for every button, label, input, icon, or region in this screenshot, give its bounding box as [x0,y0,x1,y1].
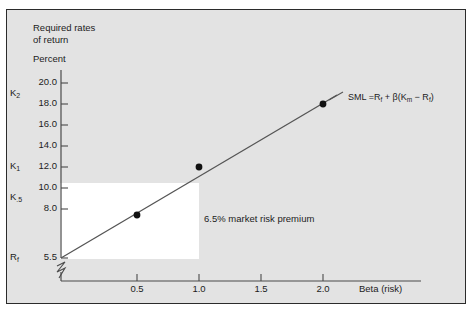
sml-line [61,95,337,258]
sml-equation-mid: + β(K [382,92,406,102]
sml-equation-label: SML =Rf + β(Km − Rf) [348,92,434,102]
x-tick-label-1-0: 1.0 [175,284,223,295]
x-tick-label-1-5: 1.5 [237,284,285,295]
sml-equation-close: ) [431,92,434,102]
y-value-label-rf-sub: f [17,256,19,263]
y-tick-label-18: 18.0 [13,98,57,109]
figure-root: Required rates of return Percent 20.0 18… [0,0,475,319]
data-point-beta-2-0 [320,101,327,108]
y-value-label-rf: Rf [10,252,19,263]
y-value-label-k2-sub: 2 [16,92,20,99]
sml-equation-lead: SML =R [348,92,380,102]
y-value-label-rf-base: R [10,251,17,262]
y-value-label-k2: K2 [10,88,20,99]
chart-panel: Required rates of return Percent 20.0 18… [6,9,466,304]
plot-area: Required rates of return Percent 20.0 18… [7,10,467,305]
market-risk-premium-label: 6.5% market risk premium [204,214,314,225]
data-point-beta-0-5 [134,212,141,219]
x-tick-label-0-5: 0.5 [113,284,161,295]
y-axis-title-line1: Required rates [33,23,95,34]
y-tick-label-8: 8.0 [13,203,57,214]
x-tick-marks [137,274,323,281]
sml-equation-leader [329,92,343,100]
data-point-beta-1-0 [196,164,203,171]
y-axis-unit-label: Percent [33,54,66,65]
sml-equation-tail: − R [412,92,429,102]
x-axis-title: Beta (risk) [359,284,402,295]
y-value-label-k1: K1 [10,161,20,172]
y-tick-label-14: 14.0 [13,140,57,151]
y-value-label-k1-sub: 1 [16,165,20,172]
sml-equation-sub-f2: f [429,96,431,103]
y-value-label-k-half-sub: .5 [16,196,22,203]
x-tick-label-2-0: 2.0 [299,284,347,295]
y-tick-marks [61,83,68,258]
y-axis-title-line2: of return [33,35,68,46]
y-tick-label-16: 16.0 [13,119,57,130]
sml-equation-sub-f1: f [380,96,382,103]
y-value-label-k-half: K.5 [10,192,22,203]
sml-equation-sub-m: m [407,96,412,103]
y-tick-label-20: 20.0 [13,77,57,88]
chart-svg [7,10,467,305]
y-tick-label-5-5: 5.5 [13,252,57,263]
